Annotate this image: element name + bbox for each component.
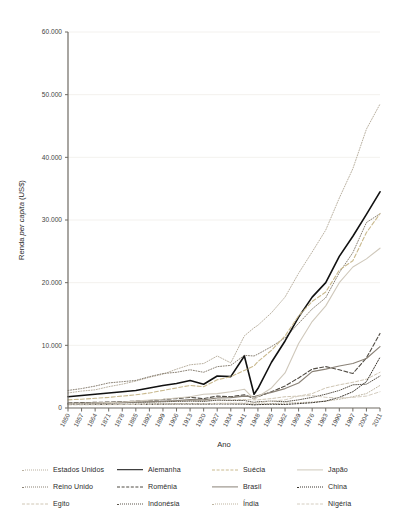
legend-item-indonésia[interactable]: Indonésia <box>117 500 212 508</box>
legend-line-swatch <box>212 501 238 507</box>
legend-item-reino-unido[interactable]: Reino Unido <box>22 483 117 491</box>
x-axis-title: Ano <box>217 440 231 449</box>
x-axis-tick-label: 1955 <box>262 412 275 428</box>
x-axis-tick-label: 1857 <box>72 412 85 428</box>
series-lines <box>68 104 380 405</box>
legend-item-nigéria[interactable]: Nigéria <box>297 500 382 508</box>
y-axis-tick-label: 50.000 <box>42 91 63 98</box>
legend-label: Reino Unido <box>53 483 93 491</box>
x-axis-tick-label: 1962 <box>275 412 288 428</box>
line-chart: 010.00020.00030.00040.00050.00060.000 18… <box>0 0 394 460</box>
grid-lines <box>68 32 380 345</box>
x-axis-tick-label: 1941 <box>235 412 248 428</box>
x-axis-tick-label: 1913 <box>180 412 193 428</box>
x-axis-tick-label: 1892 <box>140 412 153 428</box>
legend-label: Egito <box>53 500 70 508</box>
y-axis-tick-label: 60.000 <box>42 28 63 35</box>
y-axis-tick-label: 10.000 <box>42 342 63 349</box>
x-axis-tick-label: 2011 <box>371 412 384 428</box>
x-axis-tick-label: 1997 <box>343 412 356 428</box>
y-axis-tick-label: 30.000 <box>42 216 63 223</box>
x-axis-tick-label: 1885 <box>126 412 139 428</box>
x-axis-tick-label: 1899 <box>153 412 166 428</box>
legend-line-swatch <box>297 484 323 490</box>
legend-item-alemanha[interactable]: Alemanha <box>117 466 212 474</box>
chart-root: 010.00020.00030.00040.00050.00060.000 18… <box>0 0 394 532</box>
x-axis-tick-label: 1927 <box>208 412 221 428</box>
x-axis-tick-label: 1934 <box>221 412 234 428</box>
legend-label: Alemanha <box>148 466 181 474</box>
legend-line-swatch <box>22 501 48 507</box>
y-axis-tick-label: 40.000 <box>42 154 63 161</box>
legend-label: Índia <box>243 500 259 508</box>
y-axis-tick-label: 20.000 <box>42 279 63 286</box>
y-axis-title: Renda per capita (US$) <box>17 180 26 260</box>
x-axis-ticks: 1850185718641871187818851892189919061913… <box>58 408 383 428</box>
legend-line-swatch <box>212 484 238 490</box>
legend-label: Japão <box>328 466 348 474</box>
series-line-suécia <box>68 214 380 400</box>
x-axis-tick-label: 1864 <box>85 412 98 428</box>
legend-item-japão[interactable]: Japão <box>297 466 382 474</box>
series-line-brasil <box>68 347 380 404</box>
legend-line-swatch <box>22 467 48 473</box>
legend-label: Romênia <box>148 483 177 491</box>
legend-line-swatch <box>22 484 48 490</box>
legend-label: Indonésia <box>148 500 180 508</box>
x-axis-tick-label: 1878 <box>113 412 126 428</box>
legend-label: Suécia <box>243 466 265 474</box>
legend-label: Estados Unidos <box>53 466 104 474</box>
series-line-japão <box>68 248 380 403</box>
legend-line-swatch <box>117 467 143 473</box>
series-line-estados-unidos <box>68 104 380 393</box>
x-axis-tick-label: 1906 <box>167 412 180 428</box>
x-axis-tick-label: 1850 <box>58 412 71 428</box>
x-axis-tick-label: 1871 <box>99 412 112 428</box>
legend-line-swatch <box>297 467 323 473</box>
legend-item-romênia[interactable]: Romênia <box>117 483 212 491</box>
legend-label: Brasil <box>243 483 261 491</box>
legend-item-suécia[interactable]: Suécia <box>212 466 297 474</box>
x-axis-tick-label: 1983 <box>316 412 329 428</box>
x-axis-tick-label: 2004 <box>357 412 370 428</box>
x-axis-tick-label: 1920 <box>194 412 207 428</box>
legend-label: China <box>328 483 347 491</box>
legend-item-egito[interactable]: Egito <box>22 500 117 508</box>
chart-legend: Estados UnidosAlemanhaSuéciaJapãoReino U… <box>22 461 382 512</box>
y-axis-ticks: 010.00020.00030.00040.00050.00060.000 <box>42 28 68 411</box>
x-axis-tick-label: 1969 <box>289 412 302 428</box>
legend-item-china[interactable]: China <box>297 483 382 491</box>
legend-item-estados-unidos[interactable]: Estados Unidos <box>22 466 117 474</box>
x-axis-tick-label: 1948 <box>248 412 261 428</box>
legend-line-swatch <box>117 484 143 490</box>
series-line-reino-unido <box>68 214 380 391</box>
legend-item-índia[interactable]: Índia <box>212 500 297 508</box>
x-axis-tick-label: 1990 <box>330 412 343 428</box>
x-axis-tick-label: 1976 <box>302 412 315 428</box>
legend-label: Nigéria <box>328 500 351 508</box>
legend-line-swatch <box>117 501 143 507</box>
legend-item-brasil[interactable]: Brasil <box>212 483 297 491</box>
y-axis-tick-label: 0 <box>58 404 62 411</box>
legend-line-swatch <box>297 501 323 507</box>
legend-line-swatch <box>212 467 238 473</box>
